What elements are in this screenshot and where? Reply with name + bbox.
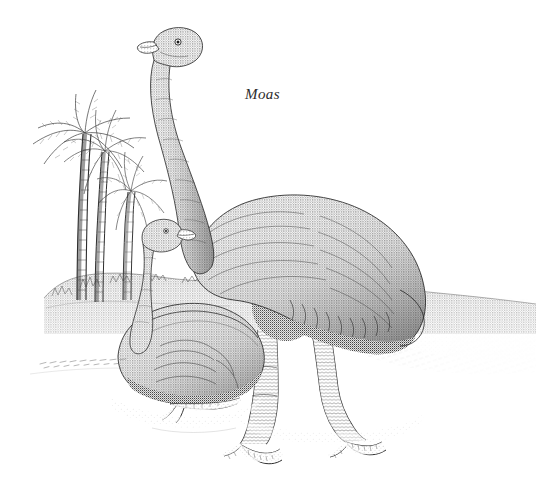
illustration-plate: Moas [0, 0, 536, 487]
plate-caption: Moas [245, 86, 280, 103]
moas-engraving [0, 0, 536, 487]
